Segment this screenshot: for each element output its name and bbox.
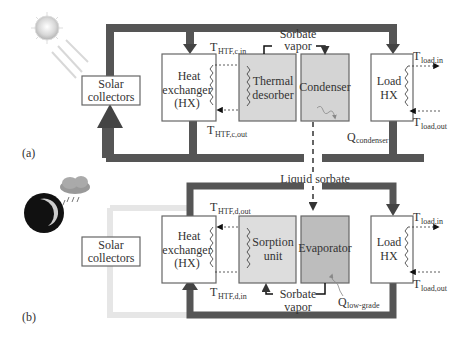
svg-text:load,out: load,out xyxy=(421,284,448,293)
svg-text:Q: Q xyxy=(347,130,356,144)
svg-text:HTF,d,in: HTF,d,in xyxy=(218,292,247,301)
svg-text:vapor: vapor xyxy=(284,300,311,314)
moon-icon xyxy=(24,193,64,233)
svg-text:Heat: Heat xyxy=(178,229,201,243)
svg-text:Evaporator: Evaporator xyxy=(298,241,351,255)
sorption-system-diagram: Solar collectors Heat exchanger (HX) T H… xyxy=(0,0,469,340)
panel-a: Solar collectors Heat exchanger (HX) T H… xyxy=(22,12,448,163)
svg-text:collectors: collectors xyxy=(88,251,135,265)
svg-text:Sorption: Sorption xyxy=(252,235,293,249)
svg-text:collectors: collectors xyxy=(88,90,135,104)
svg-text:Solar: Solar xyxy=(98,77,123,91)
svg-text:Condenser: Condenser xyxy=(299,80,350,94)
thermal-desorber: Thermal desorber xyxy=(239,54,296,121)
svg-text:vapor: vapor xyxy=(284,39,311,53)
svg-text:HX: HX xyxy=(380,249,398,263)
condenser: Condenser xyxy=(299,54,350,121)
sun-icon xyxy=(31,12,88,78)
flow-arrow-down-icon xyxy=(183,44,197,54)
svg-text:load,out: load,out xyxy=(421,122,448,131)
svg-text:HX: HX xyxy=(380,88,398,102)
sorption-unit: Sorption unit xyxy=(239,216,296,283)
svg-text:T: T xyxy=(210,200,218,214)
svg-text:T: T xyxy=(207,123,215,137)
svg-text:T: T xyxy=(210,285,218,299)
svg-text:Heat: Heat xyxy=(178,69,201,83)
svg-text:HTF,c,out: HTF,c,out xyxy=(215,130,248,139)
svg-text:condenser: condenser xyxy=(356,136,389,145)
solar-collectors-b: Solar collectors xyxy=(82,237,140,266)
svg-text:T: T xyxy=(210,40,218,54)
rain-cloud-icon xyxy=(60,176,90,205)
flow-arrow-down-icon xyxy=(386,204,400,216)
svg-text:T: T xyxy=(413,210,421,224)
svg-text:exchanger: exchanger xyxy=(162,83,211,97)
svg-text:HTF,d,out: HTF,d,out xyxy=(218,207,251,216)
svg-text:load,in: load,in xyxy=(421,217,443,226)
heat-exchanger-a: Heat exchanger (HX) xyxy=(162,54,216,121)
solar-collectors-a: Solar collectors xyxy=(82,76,140,105)
load-hx-b: Load HX xyxy=(371,216,440,283)
svg-text:Q: Q xyxy=(338,295,347,309)
flow-arrow-up-icon xyxy=(97,104,123,128)
svg-text:Sorbate: Sorbate xyxy=(280,287,317,301)
flow-arrow-down-icon xyxy=(386,44,400,54)
svg-text:(HX): (HX) xyxy=(174,256,199,270)
svg-text:exchanger: exchanger xyxy=(162,243,211,257)
svg-text:desorber: desorber xyxy=(252,88,293,102)
svg-text:T: T xyxy=(413,49,421,63)
panel-b: Solar collectors Heat exchanger (HX) T H… xyxy=(22,176,448,324)
heat-exchanger-b: Heat exchanger (HX) xyxy=(162,216,216,283)
svg-text:T: T xyxy=(413,277,421,291)
svg-text:Solar: Solar xyxy=(98,238,123,252)
svg-text:T: T xyxy=(413,115,421,129)
svg-text:low-grade: low-grade xyxy=(347,301,380,310)
svg-text:Load: Load xyxy=(377,74,402,88)
svg-text:Load: Load xyxy=(377,235,402,249)
panel-a-label: (a) xyxy=(22,146,35,160)
svg-text:unit: unit xyxy=(264,249,283,263)
panel-b-label: (b) xyxy=(22,310,36,324)
svg-text:(HX): (HX) xyxy=(174,96,199,110)
svg-text:Thermal: Thermal xyxy=(253,74,294,88)
svg-text:load,in: load,in xyxy=(421,56,443,65)
